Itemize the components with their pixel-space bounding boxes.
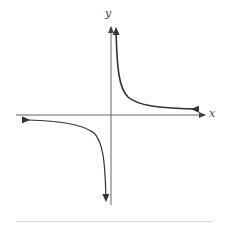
hyperbola-graph <box>0 0 228 236</box>
curve-branch-quadrant-3 <box>28 120 106 200</box>
x-axis-label: x <box>209 107 215 120</box>
y-axis-label: y <box>105 7 111 20</box>
curve-branch-quadrant-1 <box>116 29 193 109</box>
separator-line <box>16 221 212 222</box>
